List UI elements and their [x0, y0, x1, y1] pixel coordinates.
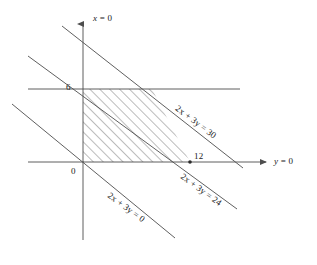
axis-label-y-equals-0: y = 0: [274, 157, 293, 166]
plot-svg: [0, 0, 317, 265]
feasible-region-hatched: [83, 89, 190, 162]
vertex-point-12: [188, 160, 192, 164]
tick-label-origin-0: 0: [71, 167, 76, 176]
tick-label-6: 6: [66, 83, 71, 92]
tick-label-12: 12: [194, 152, 203, 161]
axis-label-y-rest: = 0: [278, 156, 293, 166]
axis-label-x-rest: = 0: [97, 13, 112, 23]
axis-label-x-equals-0: x = 0: [93, 14, 112, 23]
figure-canvas: x = 0 y = 0 6 0 12 2x + 3y = 30 2x + 3y …: [0, 0, 317, 265]
